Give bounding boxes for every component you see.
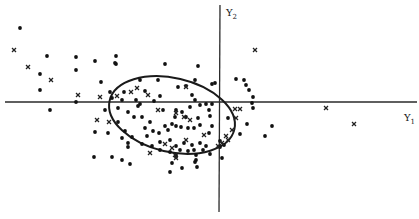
data-point-dot: [178, 148, 182, 152]
data-point-dot: [120, 136, 124, 140]
data-point-dot: [143, 89, 147, 93]
dot-markers: [18, 26, 274, 174]
data-point-dot: [48, 108, 52, 112]
data-point-dot: [220, 156, 224, 160]
data-point-dot: [170, 122, 174, 126]
data-point-dot: [190, 143, 194, 147]
data-point-dot: [208, 114, 212, 118]
data-point-dot: [116, 120, 120, 124]
data-point-cross: [12, 48, 16, 52]
data-point-cross: [129, 90, 133, 94]
scatter-plot: Y2 Y1: [0, 0, 419, 219]
data-point-dot: [45, 54, 49, 58]
data-point-dot: [120, 98, 124, 102]
data-point-dot: [210, 124, 214, 128]
data-point-dot: [120, 158, 124, 162]
data-point-cross: [148, 151, 152, 155]
data-point-dot: [103, 108, 107, 112]
data-point-dot: [168, 170, 172, 174]
data-point-dot: [128, 162, 132, 166]
data-point-dot: [136, 104, 140, 108]
data-point-dot: [207, 108, 211, 112]
data-point-dot: [251, 106, 255, 110]
data-point-dot: [157, 131, 161, 135]
data-point-cross: [95, 118, 99, 122]
data-point-dot: [270, 124, 274, 128]
data-point-cross: [76, 93, 80, 97]
data-point-dot: [148, 120, 152, 124]
data-point-dot: [161, 108, 165, 112]
data-point-cross: [107, 120, 111, 124]
data-point-dot: [163, 124, 167, 128]
data-point-cross: [170, 146, 174, 150]
data-point-dot: [126, 145, 130, 149]
y-axis: [219, 5, 220, 212]
data-point-dot: [208, 152, 212, 156]
data-point-dot: [150, 144, 154, 148]
data-point-dot: [180, 110, 184, 114]
data-point-dot: [168, 138, 172, 142]
data-point-dot: [166, 128, 170, 132]
data-point-dot: [113, 61, 117, 65]
data-point-cross: [98, 95, 102, 99]
data-point-dot: [242, 78, 246, 82]
data-point-cross: [233, 107, 237, 111]
data-point-dot: [192, 126, 196, 130]
data-point-dot: [156, 78, 160, 82]
concentration-ellipse: [101, 65, 242, 166]
data-point-cross: [352, 122, 356, 126]
data-point-cross: [253, 48, 257, 52]
data-point-dot: [201, 148, 205, 152]
data-point-cross: [146, 93, 150, 97]
data-point-dot: [198, 141, 202, 145]
data-point-dot: [158, 94, 162, 98]
data-point-dot: [238, 132, 242, 136]
data-point-dot: [92, 155, 96, 159]
data-point-dot: [186, 149, 190, 153]
data-point-dot: [158, 140, 162, 144]
data-point-dot: [168, 150, 172, 154]
data-point-dot: [251, 95, 255, 99]
data-point-dot: [198, 103, 202, 107]
data-point-dot: [194, 153, 198, 157]
data-point-cross: [202, 133, 206, 137]
data-point-dot: [74, 100, 78, 104]
data-point-cross: [156, 108, 160, 112]
data-point-dot: [158, 148, 162, 152]
data-point-dot: [180, 166, 184, 170]
data-point-dot: [193, 78, 197, 82]
data-point-dot: [93, 59, 97, 63]
y-axis-label: Y2: [225, 7, 237, 21]
data-point-dot: [126, 110, 130, 114]
data-point-dot: [244, 83, 248, 87]
data-point-dot: [18, 26, 22, 30]
data-point-dot: [145, 134, 149, 138]
data-point-dot: [207, 131, 211, 135]
data-point-dot: [152, 99, 156, 103]
x-axis-label: Y1: [403, 112, 415, 126]
data-point-dot: [250, 101, 254, 105]
data-point-dot: [186, 126, 190, 130]
data-point-dot: [213, 81, 217, 85]
data-point-dot: [110, 96, 114, 100]
data-point-dot: [170, 161, 174, 165]
data-point-dot: [126, 141, 130, 145]
data-point-cross: [115, 94, 119, 98]
data-point-cross: [184, 138, 188, 142]
data-point-dot: [193, 98, 197, 102]
data-point-dot: [204, 144, 208, 148]
data-point-dot: [176, 85, 180, 89]
data-point-dot: [245, 122, 249, 126]
data-point-dot: [151, 129, 155, 133]
data-point-dot: [140, 142, 144, 146]
data-point-dot: [174, 144, 178, 148]
data-point-dot: [130, 135, 134, 139]
data-point-dot: [226, 116, 230, 120]
data-point-dot: [174, 124, 178, 128]
data-point-dot: [110, 155, 114, 159]
data-point-dot: [93, 130, 97, 134]
data-point-dot: [108, 90, 112, 94]
data-point-cross: [324, 106, 328, 110]
data-point-dot: [116, 106, 120, 110]
data-point-dot: [143, 126, 147, 130]
